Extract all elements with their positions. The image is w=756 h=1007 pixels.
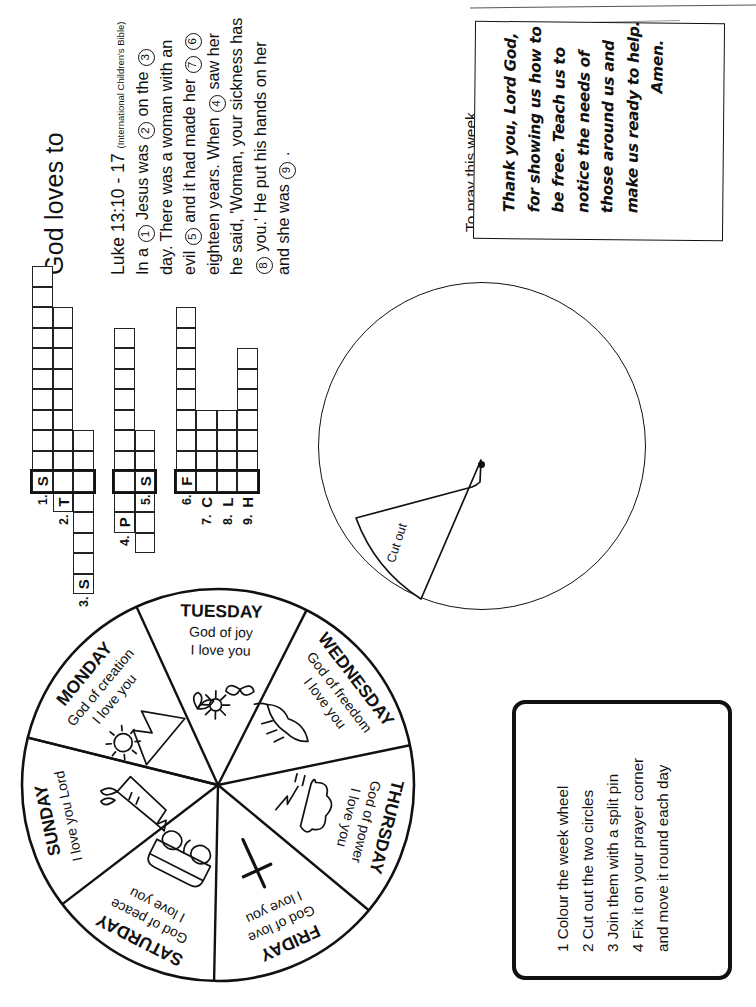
instruction-text: and move it round each day — [654, 765, 671, 952]
crossword-cell[interactable] — [176, 410, 197, 431]
verse-line: evil 5 and it had made her 7 6 — [180, 32, 202, 275]
crossword-clue-number: 6. — [180, 494, 194, 504]
crossword-cell[interactable] — [217, 430, 238, 451]
crossword-cell[interactable] — [237, 451, 258, 472]
crossword-cell[interactable] — [196, 451, 217, 472]
crossword-cell[interactable] — [176, 328, 197, 349]
crossword-cell[interactable] — [53, 369, 74, 390]
crossword-cell[interactable] — [32, 369, 53, 390]
crossword-cell[interactable] — [196, 430, 217, 451]
crossword-cell[interactable] — [114, 348, 135, 369]
crossword-clue-number: 9. — [241, 515, 255, 525]
prayer-line: Amen. — [648, 40, 667, 94]
crossword-cell[interactable] — [53, 348, 74, 369]
crossword-cell[interactable] — [32, 266, 53, 287]
instruction-number: 3 — [604, 939, 621, 952]
crossword-cell[interactable] — [32, 348, 53, 369]
crossword-cell[interactable] — [135, 512, 156, 533]
crossword-cell[interactable] — [32, 287, 53, 308]
crossword-cell[interactable] — [32, 410, 53, 431]
crossword-cell[interactable] — [114, 389, 135, 410]
crossword-cell[interactable] — [53, 451, 74, 472]
verse-text-run — [180, 51, 198, 56]
crossword-clue-number: 1. — [36, 494, 50, 504]
crossword-cell[interactable] — [114, 369, 135, 390]
crossword-cell[interactable] — [237, 369, 258, 390]
crossword-cell[interactable] — [176, 430, 197, 451]
crossword-cell[interactable] — [114, 430, 135, 451]
verse-text-run: day. There was a woman with an — [157, 40, 175, 275]
crossword-cell[interactable] — [196, 410, 217, 431]
crossword-clue-number: 8. — [221, 515, 235, 525]
cut-out-wedge — [318, 282, 648, 612]
verse-line: day. There was a woman with an — [157, 40, 176, 275]
crossword-cell[interactable] — [176, 369, 197, 390]
crossword-cell[interactable] — [114, 451, 135, 472]
crossword-cell[interactable] — [73, 492, 94, 513]
crossword-cell[interactable] — [135, 451, 156, 472]
crossword-given-letter: S — [135, 471, 156, 492]
crossword-cell[interactable] — [217, 410, 238, 431]
verse-line: and she was 9 . — [274, 152, 296, 275]
week-wheel[interactable]: MONDAYGod of creationI love youTUESDAYGo… — [8, 586, 428, 1007]
verse-text-run: eighteen years. When — [204, 113, 222, 275]
crossword-cell[interactable] — [53, 328, 74, 349]
page-title: God loves to — [40, 132, 69, 275]
instruction-item: 2 Cut out the two circles — [579, 790, 596, 952]
crossword-cell[interactable] — [176, 307, 197, 328]
crossword-cell[interactable] — [114, 328, 135, 349]
instructions-box: 1 Colour the week wheel2 Cut out the two… — [512, 700, 732, 980]
instruction-item: 3 Join them with a split pin — [604, 774, 621, 952]
crossword-cell[interactable] — [32, 328, 53, 349]
instruction-item: 4 Fix it on your prayer corner — [629, 758, 646, 952]
verse-line: eighteen years. When 4 saw her — [204, 33, 226, 275]
verse-text-run: and it had made her — [180, 74, 198, 227]
crossword-cell[interactable] — [32, 389, 53, 410]
crossword-cell[interactable] — [237, 430, 258, 451]
crossword-clue-number: 2. — [57, 515, 71, 525]
crossword-cell[interactable] — [73, 451, 94, 472]
prayer-line: Thank you, Lord God, — [500, 32, 520, 212]
prayer-box: Thank you, Lord God,for showing us how t… — [473, 21, 725, 241]
crossword-cell[interactable] — [217, 451, 238, 472]
crossword-cell[interactable] — [73, 553, 94, 574]
crossword-clue-number: 4. — [118, 535, 132, 545]
crossword-cell[interactable] — [32, 430, 53, 451]
crossword-given-letter: F — [176, 471, 197, 492]
instruction-text: Fix it on your prayer corner — [629, 758, 646, 939]
crossword-cell[interactable] — [237, 410, 258, 431]
prayer-line: notice the needs of — [574, 51, 594, 213]
crossword-given-letter: T — [53, 492, 74, 513]
crossword-clue-number: 5. — [139, 494, 153, 504]
crossword-cell[interactable] — [53, 410, 74, 431]
crossword-cell[interactable] — [73, 533, 94, 554]
crossword-cell[interactable] — [114, 492, 135, 513]
crossword-cell[interactable] — [53, 430, 74, 451]
crossword-cell[interactable] — [73, 430, 94, 451]
instruction-item: 1 Colour the week wheel — [554, 786, 571, 952]
instruction-number: 1 — [554, 939, 571, 952]
crossword-cell[interactable] — [176, 348, 197, 369]
verse-blank-number: 3 — [138, 49, 155, 66]
crossword-cell[interactable] — [32, 451, 53, 472]
prayer-line: make us ready to help. — [623, 21, 643, 214]
crossword-cell[interactable] — [176, 389, 197, 410]
crossword-cell[interactable] — [237, 389, 258, 410]
crossword-cell[interactable] — [237, 348, 258, 369]
crossword-cell[interactable] — [135, 533, 156, 554]
crossword-cell[interactable] — [53, 389, 74, 410]
verse-text-run: Jesus was — [133, 140, 151, 225]
crossword-cell[interactable] — [176, 451, 197, 472]
verse-blank-number: 9 — [279, 162, 296, 179]
crossword-cell[interactable] — [114, 410, 135, 431]
prayer-text-block: Thank you, Lord God,for showing us how t… — [476, 22, 724, 24]
crossword-cell[interactable] — [135, 430, 156, 451]
verse-reference: Luke 13:10 - 17 (International Children'… — [108, 22, 129, 275]
crossword-given-letter: P — [114, 512, 135, 533]
crossword-cell[interactable] — [73, 512, 94, 533]
instruction-text: Cut out the two circles — [579, 790, 596, 939]
verse-reference-text: Luke 13:10 - 17 — [108, 153, 128, 275]
crossword-cell[interactable] — [32, 307, 53, 328]
crossword-cell[interactable] — [53, 307, 74, 328]
worksheet-page: God loves to Luke 13:10 - 17 (Internatio… — [0, 0, 756, 1007]
